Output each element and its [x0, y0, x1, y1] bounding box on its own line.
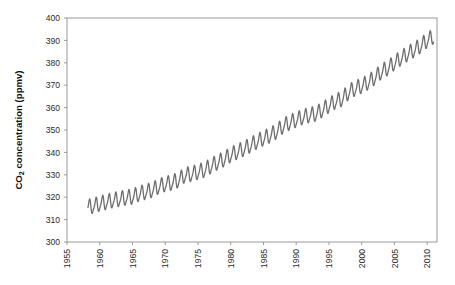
co2-line-chart: 300310320330340350360370380390400 195519…: [0, 0, 455, 285]
y-tick-label: 350: [46, 125, 61, 135]
x-tick-label: 1960: [95, 249, 105, 268]
x-tick-label: 1970: [160, 249, 170, 268]
x-tick-label: 2005: [390, 249, 400, 268]
plot-area: [67, 18, 437, 242]
x-tick-label: 1965: [128, 249, 138, 268]
y-tick-label: 330: [46, 170, 61, 180]
x-tick-label: 1995: [324, 249, 334, 268]
x-tick-label: 1985: [259, 249, 269, 268]
y-tick-label: 370: [46, 80, 61, 90]
y-tick-label: 300: [46, 237, 61, 247]
x-tick-label: 1980: [226, 249, 236, 268]
y-tick-label: 320: [46, 192, 61, 202]
x-tick-label: 1975: [193, 249, 203, 268]
y-tick-label: 380: [46, 58, 61, 68]
y-tick-label: 390: [46, 36, 61, 46]
y-tick-label: 340: [46, 148, 61, 158]
y-tick-label: 400: [46, 13, 61, 23]
chart-figure: 300310320330340350360370380390400 195519…: [0, 0, 455, 285]
x-tick-label: 2010: [422, 249, 432, 268]
y-tick-label: 310: [46, 215, 61, 225]
x-tick-label: 2000: [357, 249, 367, 268]
plot-background: [67, 18, 437, 242]
y-tick-label: 360: [46, 103, 61, 113]
x-tick-label: 1990: [291, 249, 301, 268]
x-tick-label: 1955: [62, 249, 72, 268]
